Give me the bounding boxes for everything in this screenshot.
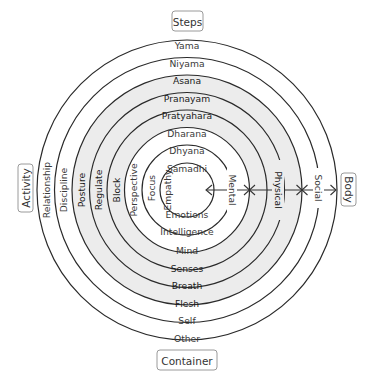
ring-label-dhyana: Dhyana — [169, 145, 204, 156]
ring-label-social: Social — [313, 174, 324, 201]
ring-label-intelligence: Intelligence — [160, 226, 214, 237]
steps-label: Steps — [173, 16, 202, 28]
body-label: Body — [343, 176, 355, 203]
ring-label-physical: Physical — [273, 171, 284, 208]
ring-label-dharana: Dharana — [167, 128, 206, 139]
ring-label-empathy: Empathy — [162, 169, 173, 211]
ring-label-flesh: Flesh — [175, 298, 199, 309]
ring-label-breath: Breath — [172, 280, 203, 291]
ring-label-mental: Mental — [227, 174, 238, 205]
ring-label-regulate: Regulate — [93, 169, 104, 210]
ring-label-pratyahara: Pratyahara — [162, 110, 212, 121]
ring-label-yama: Yama — [174, 40, 200, 51]
ring-label-posture: Posture — [76, 173, 87, 208]
ring-label-pranayam: Pranayam — [164, 93, 210, 104]
ring-label-block: Block — [111, 177, 122, 203]
ring-label-niyama: Niyama — [169, 58, 204, 69]
axis-label-body: Body — [341, 173, 356, 206]
ring-label-self: Self — [178, 315, 196, 326]
ring-label-discipline: Discipline — [58, 167, 69, 212]
axis-label-container: Container — [157, 350, 217, 370]
activity-label: Activity — [20, 168, 32, 207]
yoga-steps-ring-diagram: Yama Niyama Asana Pranayam Pratyahara Dh… — [0, 0, 374, 384]
ring-label-samadhi: Samadhi — [167, 163, 207, 174]
ring-label-other: Other — [174, 333, 200, 344]
axis-label-activity: Activity — [18, 164, 33, 212]
ring-label-relationship: Relationship — [41, 162, 52, 219]
ring-label-asana: Asana — [173, 75, 201, 86]
ring-label-senses: Senses — [171, 263, 204, 274]
axis-label-steps: Steps — [172, 11, 203, 31]
ring-label-focus: Focus — [146, 175, 157, 201]
container-label: Container — [161, 355, 213, 367]
ring-label-perspective: Perspective — [128, 163, 139, 217]
ring-label-mind: Mind — [176, 245, 198, 256]
